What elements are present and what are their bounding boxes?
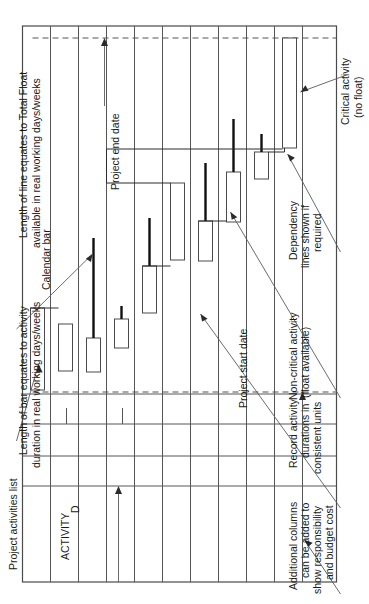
annotation-record-l2: durations in: [300, 404, 311, 458]
annotation-additional-l4: and budget cost: [324, 505, 335, 580]
annotation-dependency-l1: Dependency: [288, 201, 299, 260]
annotation-project-end-label: Project end date: [110, 114, 121, 190]
annotation-record-l1: Record activity: [288, 399, 299, 468]
diagram-stage: ACTIVITY D Calendar bar: [0, 0, 369, 604]
annotation-critical-l1: Critical activity: [340, 58, 351, 125]
annotation-float-line-l1: Length of line equates to Total Float: [18, 72, 29, 238]
annotation-activities-list-label: Project activities list: [8, 478, 19, 570]
text-overlay: Length of line equates to Total Floatava…: [0, 0, 369, 604]
annotation-additional-l1: Additional columns: [288, 502, 299, 590]
annotation-float-line-l2: available in real working days/weeks: [31, 78, 42, 248]
annotation-project-start-label: Project start date: [238, 329, 249, 408]
annotation-critical-l2: (no float): [353, 77, 364, 118]
annotation-bar-length-l1: Length of bar equates to activity: [18, 306, 29, 455]
header-activity: ACTIVITY: [60, 513, 71, 560]
annotation-additional-l2: can be added to: [300, 503, 311, 578]
annotation-additional-l3: show responsibility: [312, 506, 323, 594]
annotation-dependency-l3: required: [312, 213, 323, 252]
annotation-noncritical-l2: (float available): [300, 327, 311, 398]
annotation-noncritical-l1: Non-critical activity: [288, 312, 299, 400]
annotation-record-l3: consistent units: [312, 402, 323, 474]
header-duration: D: [70, 505, 81, 513]
annotation-bar-length-l2: duration in real working days/weeks: [31, 302, 42, 468]
calendar-bar-label: Calendar bar: [41, 229, 52, 290]
annotation-dependency-l2: lines shown if: [300, 205, 311, 268]
